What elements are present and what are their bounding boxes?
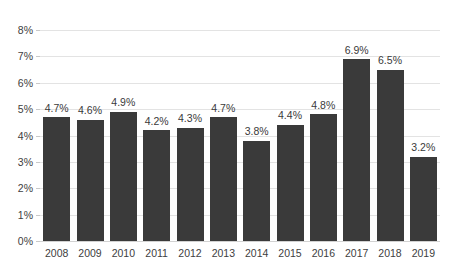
bar-group[interactable]: 4.8%2016 (310, 30, 337, 241)
y-axis-tick-label: 2% (18, 183, 33, 194)
bar-group[interactable]: 4.4%2015 (277, 30, 304, 241)
bar-group[interactable]: 6.9%2017 (343, 30, 370, 241)
bar[interactable] (143, 130, 170, 241)
y-axis-tick-mark (36, 136, 40, 137)
x-axis-tick-label: 2015 (278, 248, 301, 259)
bar-value-label: 4.9% (111, 97, 135, 108)
y-axis-tick-label: 8% (18, 25, 33, 36)
bar-value-label: 6.5% (378, 55, 402, 66)
x-axis-tick-label: 2016 (312, 248, 335, 259)
x-axis-tick-label: 2010 (112, 248, 135, 259)
y-axis-tick-mark (36, 162, 40, 163)
y-axis-tick-label: 0% (18, 236, 33, 247)
bar[interactable] (177, 128, 204, 241)
bar-chart: 0%1%2%3%4%5%6%7%8% 4.7%20084.6%20094.9%2… (0, 0, 456, 275)
y-axis-tick-label: 5% (18, 104, 33, 115)
bar[interactable] (110, 112, 137, 241)
gridline (40, 241, 440, 242)
bar-group[interactable]: 3.2%2019 (410, 30, 437, 241)
y-axis-tick-mark (36, 188, 40, 189)
bar-value-label: 4.3% (178, 113, 202, 124)
bar-group[interactable]: 3.8%2014 (243, 30, 270, 241)
bar-value-label: 4.8% (311, 100, 335, 111)
bar-group[interactable]: 4.3%2012 (177, 30, 204, 241)
bar[interactable] (277, 125, 304, 241)
bar-group[interactable]: 4.9%2010 (110, 30, 137, 241)
y-axis-tick-mark (36, 30, 40, 31)
y-axis-tick-mark (36, 83, 40, 84)
bar-value-label: 4.7% (45, 103, 69, 114)
x-axis-tick-label: 2019 (412, 248, 435, 259)
x-axis-tick-label: 2012 (178, 248, 201, 259)
y-axis-tick-mark (36, 109, 40, 110)
x-axis-tick-label: 2008 (45, 248, 68, 259)
bar[interactable] (210, 117, 237, 241)
y-axis-tick-mark (36, 241, 40, 242)
x-axis-tick-label: 2018 (378, 248, 401, 259)
x-axis-tick-label: 2017 (345, 248, 368, 259)
bar[interactable] (310, 114, 337, 241)
bar-group[interactable]: 4.7%2008 (43, 30, 70, 241)
bar-value-label: 3.8% (245, 126, 269, 137)
bar[interactable] (243, 141, 270, 241)
bar-group[interactable]: 4.2%2011 (143, 30, 170, 241)
bar-group[interactable]: 6.5%2018 (377, 30, 404, 241)
bar-group[interactable]: 4.6%2009 (77, 30, 104, 241)
x-axis-tick-label: 2011 (145, 248, 168, 259)
bar-group[interactable]: 4.7%2013 (210, 30, 237, 241)
x-axis-tick-label: 2014 (245, 248, 268, 259)
bar-value-label: 4.4% (278, 110, 302, 121)
y-axis-tick-mark (36, 215, 40, 216)
y-axis-tick-label: 6% (18, 78, 33, 89)
y-axis-tick-mark (36, 56, 40, 57)
plot-area: 0%1%2%3%4%5%6%7%8% 4.7%20084.6%20094.9%2… (40, 30, 440, 241)
bar[interactable] (377, 70, 404, 241)
bar[interactable] (410, 157, 437, 241)
bar[interactable] (43, 117, 70, 241)
y-axis-tick-label: 4% (18, 130, 33, 141)
bar-value-label: 4.6% (78, 105, 102, 116)
x-axis-tick-label: 2013 (212, 248, 235, 259)
bar-value-label: 4.7% (211, 103, 235, 114)
bar-value-label: 4.2% (145, 116, 169, 127)
y-axis-tick-label: 3% (18, 157, 33, 168)
y-axis-tick-label: 7% (18, 51, 33, 62)
bar[interactable] (343, 59, 370, 241)
bar-value-label: 3.2% (411, 142, 435, 153)
bar[interactable] (77, 120, 104, 241)
x-axis-tick-label: 2009 (78, 248, 101, 259)
y-axis-tick-label: 1% (18, 209, 33, 220)
bar-value-label: 6.9% (345, 45, 369, 56)
